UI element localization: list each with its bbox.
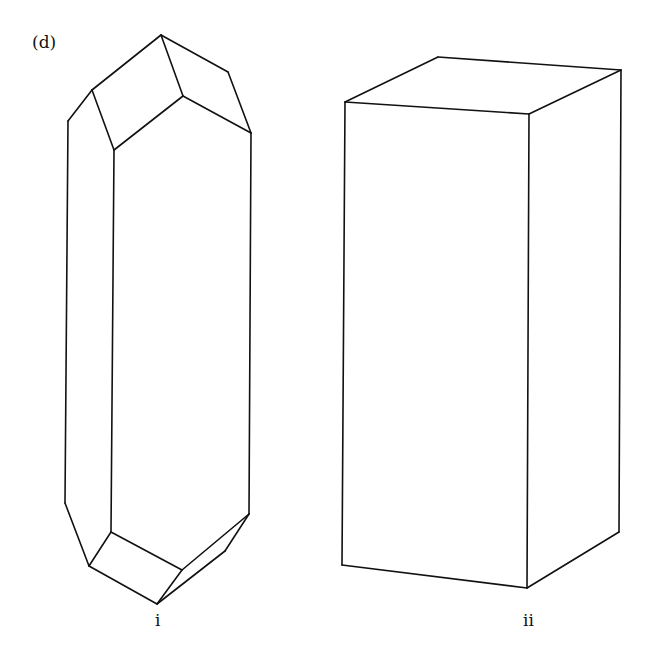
drawing-label-ii: ii: [523, 610, 534, 630]
crystal-edge: [92, 35, 161, 90]
crystal-edge: [157, 551, 225, 604]
crystal-edge: [111, 150, 114, 532]
crystal-edge: [345, 57, 438, 102]
crystal-drawing-i: [65, 35, 251, 604]
crystal-edge: [65, 121, 68, 503]
crystal-edge: [228, 72, 251, 133]
crystal-edge: [161, 35, 183, 96]
crystal-edge: [225, 514, 249, 551]
crystal-edge: [111, 532, 182, 570]
crystal-edge: [65, 503, 89, 566]
crystal-edge: [345, 102, 529, 114]
crystal-edge: [89, 532, 111, 566]
crystal-figure: [0, 0, 656, 658]
crystal-edge: [68, 90, 92, 121]
crystal-edge: [92, 90, 114, 150]
crystal-edge: [619, 70, 621, 532]
crystal-edge: [89, 566, 157, 604]
drawing-label-i: i: [155, 610, 160, 630]
crystal-edge: [527, 114, 529, 588]
crystal-edge: [183, 96, 251, 133]
crystal-edge: [438, 57, 621, 70]
panel-label: (d): [32, 32, 56, 52]
crystal-edge: [161, 35, 228, 72]
crystal-edge: [342, 102, 345, 565]
crystal-edge: [182, 514, 249, 570]
crystal-edge: [342, 565, 527, 588]
crystal-drawing-ii: [342, 57, 621, 588]
crystal-edge: [527, 532, 619, 588]
crystal-edge: [529, 70, 621, 114]
crystal-edge: [114, 96, 183, 150]
crystal-edge: [249, 133, 251, 514]
